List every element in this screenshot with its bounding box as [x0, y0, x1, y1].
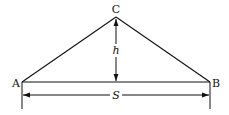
side-cb [116, 17, 210, 82]
side-ac [22, 17, 116, 82]
triangle-diagram: h S C A B [0, 0, 229, 115]
vertex-label-c: C [112, 3, 120, 16]
vertex-label-a: A [11, 77, 21, 90]
span-label: S [112, 89, 120, 102]
height-label: h [112, 44, 119, 57]
diagram-svg: h S C A B [0, 0, 229, 115]
vertex-label-b: B [212, 77, 220, 90]
